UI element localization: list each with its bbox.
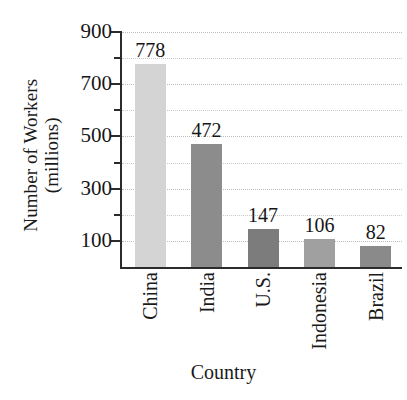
bar-value-label: 147 — [233, 205, 293, 225]
x-axis-title: Country — [0, 362, 407, 382]
bar — [248, 229, 279, 267]
x-category-label: Indonesia — [309, 272, 329, 350]
bar — [360, 246, 391, 267]
x-category-label: Brazil — [366, 272, 386, 321]
bar-value-label: 472 — [177, 120, 237, 140]
y-tick-minor — [114, 109, 122, 111]
y-tick-major — [111, 135, 122, 137]
y-axis-title-line1: Number of Workers — [20, 79, 41, 232]
x-category-label: India — [197, 272, 217, 313]
y-tick-label: 700 — [81, 73, 113, 94]
bar — [304, 239, 335, 267]
y-tick-label: 900 — [81, 21, 113, 42]
x-category-label-wrap: Indonesia — [306, 272, 332, 362]
y-tick-label: 100 — [81, 230, 113, 251]
x-category-label: China — [140, 272, 160, 320]
bar-chart-figure: Number of Workers (millions) 90070050030… — [0, 0, 407, 400]
bar-value-label: 82 — [346, 222, 406, 242]
x-category-label-wrap: India — [194, 272, 220, 362]
plot-area: 77847214710682 — [120, 32, 402, 267]
bar — [135, 64, 166, 267]
y-tick-minor — [114, 162, 122, 164]
x-category-label-wrap: China — [137, 272, 163, 362]
x-category-label-wrap: U.S. — [250, 272, 276, 362]
y-tick-label: 300 — [81, 178, 113, 199]
gridline-major — [122, 32, 402, 34]
x-category-label: U.S. — [253, 272, 273, 308]
x-category-label-wrap: Brazil — [363, 272, 389, 362]
bar-value-label: 106 — [289, 215, 349, 235]
y-tick-major — [111, 83, 122, 85]
y-tick-label: 500 — [81, 125, 113, 146]
x-axis-line — [120, 267, 402, 269]
bar-value-label: 778 — [120, 40, 180, 60]
y-tick-major — [111, 240, 122, 242]
bar — [191, 144, 222, 267]
y-tick-major — [111, 31, 122, 33]
y-tick-minor — [114, 214, 122, 216]
y-axis-line — [120, 32, 122, 267]
y-axis-tick-labels: 900700500300100 — [56, 32, 112, 267]
y-tick-major — [111, 188, 122, 190]
